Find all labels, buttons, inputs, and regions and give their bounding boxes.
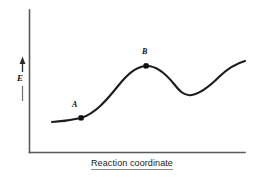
x-axis-caption: Reaction coordinate — [0, 158, 264, 170]
energy-profile-plot — [0, 0, 264, 178]
point-label-a: A — [72, 101, 77, 109]
x-axis-caption-text: Reaction coordinate — [91, 158, 173, 170]
curve-point-a — [79, 116, 84, 121]
curve-point-b — [144, 64, 149, 69]
energy-profile-curve — [52, 61, 245, 122]
point-label-b: B — [142, 48, 147, 56]
reaction-coordinate-figure: E A B Reaction coordinate — [0, 0, 264, 178]
up-arrow-icon — [20, 57, 26, 73]
y-axis-label: E — [17, 74, 23, 83]
